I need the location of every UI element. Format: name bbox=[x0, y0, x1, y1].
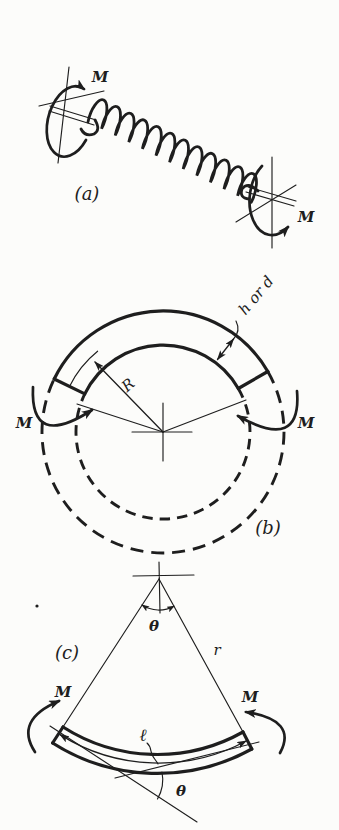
figure-c: θ r ℓ θ M M (c) bbox=[28, 562, 284, 822]
thickness-label: h or d bbox=[235, 272, 278, 318]
book-figure-page: M M (a) R h or d M M (b) bbox=[0, 0, 339, 830]
radius-R-label: R bbox=[117, 374, 138, 396]
moment-label-left: M bbox=[15, 414, 33, 432]
torsion-spring-figure: M M (a) R h or d M M (b) bbox=[0, 0, 339, 830]
deflection-angle-label: θ bbox=[176, 782, 186, 800]
radial-line-right bbox=[163, 400, 246, 432]
hidden-outer-arc bbox=[42, 372, 284, 553]
coil-end-cap-right bbox=[238, 372, 267, 389]
figure-a: M M (a) bbox=[39, 67, 315, 248]
moment-label-right: M bbox=[297, 208, 315, 226]
deflection-angle-arc bbox=[158, 772, 163, 799]
apex-angle-arc bbox=[142, 605, 174, 610]
caption-c: (c) bbox=[55, 642, 79, 663]
moment-label-right: M bbox=[297, 414, 315, 432]
sector-line-right bbox=[159, 579, 243, 732]
coil-inner-arc bbox=[85, 345, 239, 394]
figure-b: R h or d M M (b) bbox=[15, 272, 315, 553]
print-speck bbox=[35, 604, 38, 607]
caption-a: (a) bbox=[75, 183, 100, 204]
apex-angle-label: θ bbox=[149, 617, 159, 635]
length-label: ℓ bbox=[139, 725, 146, 745]
moment-arrow-right bbox=[250, 166, 288, 235]
helical-coil bbox=[88, 100, 256, 203]
moment-label-left: M bbox=[91, 68, 109, 86]
caption-b: (b) bbox=[255, 517, 281, 538]
radius-r-label: r bbox=[213, 641, 221, 659]
moment-label-left: M bbox=[54, 683, 72, 701]
thickness-dimension-arrow bbox=[218, 339, 234, 360]
moment-label-right: M bbox=[241, 688, 259, 706]
